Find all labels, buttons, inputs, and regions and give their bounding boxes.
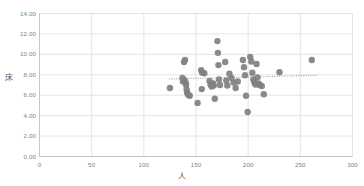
x-tick-label: 250 — [288, 161, 312, 168]
y-tick-label: 14.00 — [14, 10, 36, 17]
data-points — [167, 38, 315, 115]
x-tick-label: 0 — [28, 161, 52, 168]
y-tick-label: 2.00 — [14, 132, 36, 139]
y-tick-label: 8.00 — [14, 71, 36, 78]
x-tick-label: 300 — [341, 161, 364, 168]
x-axis-title: 人 — [0, 170, 364, 181]
y-tick-label: 0.00 — [14, 153, 36, 160]
gridlines — [40, 14, 353, 157]
y-axis-title: 床 — [2, 71, 16, 82]
x-tick-label: 200 — [236, 161, 260, 168]
plot-area — [0, 0, 364, 186]
y-tick-label: 4.00 — [14, 112, 36, 119]
x-tick-label: 150 — [184, 161, 208, 168]
x-tick-label: 50 — [80, 161, 104, 168]
y-tick-label: 12.00 — [14, 30, 36, 37]
y-tick-label: 10.00 — [14, 50, 36, 57]
y-tick-label: 6.00 — [14, 91, 36, 98]
scatter-chart: 0.002.004.006.008.0010.0012.0014.00 0501… — [0, 0, 364, 186]
x-tick-label: 100 — [132, 161, 156, 168]
